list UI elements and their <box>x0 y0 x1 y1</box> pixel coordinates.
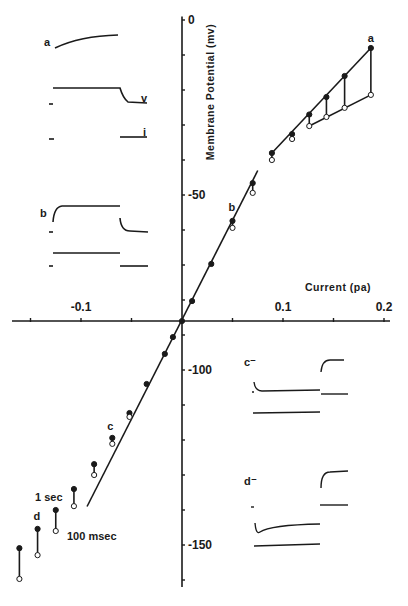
data-point-filled <box>230 218 235 223</box>
fit-line <box>272 48 371 153</box>
annotation-1-sec: 1 sec <box>35 491 63 503</box>
data-point-open <box>269 157 274 162</box>
data-point-open <box>250 190 255 195</box>
inset-b-tail-trace <box>120 218 148 232</box>
data-point-filled <box>144 381 149 386</box>
x-tick-label: 0.2 <box>376 300 393 314</box>
inset-a-label: a <box>44 36 51 48</box>
data-point-open <box>17 576 22 581</box>
axes: -0.10.10.20-50-100-150Current (pa)Membra… <box>12 13 393 587</box>
inset-d-label: d⁻ <box>244 475 257 487</box>
data-point-filled <box>342 73 347 78</box>
data-point-filled <box>162 351 167 356</box>
data-point-filled <box>35 526 40 531</box>
data-point-filled <box>209 261 214 266</box>
data-point-filled <box>92 462 97 467</box>
inset-a-rising-trace <box>55 35 118 48</box>
data-point-filled <box>53 507 58 512</box>
data-point-open <box>71 504 76 509</box>
data-point-filled <box>307 112 312 117</box>
data-point-open <box>324 114 329 119</box>
point-label-c: c <box>107 420 113 432</box>
inset-d-i-trace <box>254 544 320 546</box>
inset-c-v-trace <box>254 382 320 391</box>
data-point-filled <box>17 546 22 551</box>
x-tick-label: -0.1 <box>71 300 92 314</box>
data-point-filled <box>71 486 76 491</box>
point-label-d: d <box>34 510 41 522</box>
x-tick-label: 0.1 <box>275 300 292 314</box>
data-point-filled <box>324 94 329 99</box>
voltage-clamp-insets: a v i b c⁻ d⁻ <box>40 35 348 546</box>
data-point-open <box>289 136 294 141</box>
data-point-filled <box>190 298 195 303</box>
data-point-filled <box>250 181 255 186</box>
data-point-open <box>230 225 235 230</box>
data-point-open <box>368 92 373 97</box>
inset-b-label: b <box>40 207 47 219</box>
x-axis-label: Current (pa) <box>305 281 371 293</box>
data-point-open <box>35 553 40 558</box>
y-axis-label: Membrane Potential (mv) <box>204 24 216 160</box>
point-label-b: b <box>229 201 236 213</box>
inset-a <box>49 35 147 139</box>
inset-d-v-trace <box>255 523 320 533</box>
inset-a-i-label: i <box>143 126 146 138</box>
fit-line <box>309 95 371 126</box>
iv-curve-chart: a v i b c⁻ d⁻ -0.10.10.20-50-100-150Curr… <box>0 0 408 606</box>
data-point-filled <box>368 45 373 50</box>
data-point-filled <box>179 318 184 323</box>
inset-b <box>49 206 148 266</box>
y-tick-label: 0 <box>188 13 195 27</box>
inset-a-v-label: v <box>141 92 148 104</box>
data-point-open <box>110 441 115 446</box>
y-tick-label: -100 <box>188 363 212 377</box>
data-point-open <box>127 414 132 419</box>
data-point-open <box>307 123 312 128</box>
inset-c-i-trace <box>253 412 320 413</box>
inset-c-rebound-trace <box>321 360 344 372</box>
inset-c <box>252 360 348 413</box>
data-point-filled <box>269 150 274 155</box>
y-tick-label: -50 <box>188 188 206 202</box>
data-point-filled <box>110 435 115 440</box>
inset-b-v-trace <box>53 206 120 222</box>
data-point-open <box>92 472 97 477</box>
inset-a-v-trace <box>53 88 147 103</box>
annotation-100-msec: 100 msec <box>67 530 117 542</box>
y-tick-label: -150 <box>188 538 212 552</box>
data-point-open <box>53 528 58 533</box>
data-point-open <box>342 105 347 110</box>
data-point-filled <box>170 335 175 340</box>
inset-d-rebound-trace <box>321 471 348 488</box>
inset-c-label: c⁻ <box>244 356 256 368</box>
point-label-a: a <box>368 32 375 44</box>
inset-d <box>251 471 348 546</box>
